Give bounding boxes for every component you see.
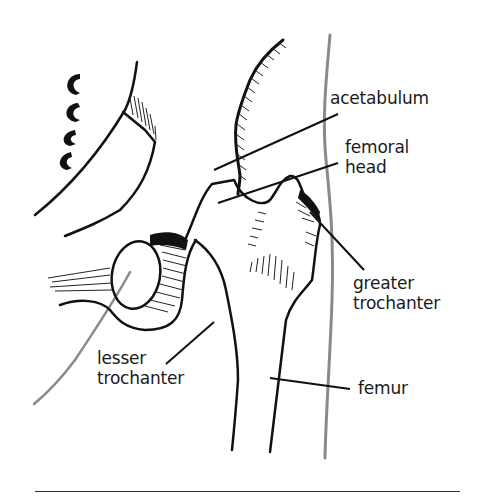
bottom-divider [35,491,460,492]
sacrum-icon [60,74,80,170]
pubis-dark-patch [150,232,188,250]
ilium-outline [35,62,137,215]
femur-outline [185,176,320,452]
label-acetabulum: acetabulum [330,88,429,108]
hip-anatomy-illustration [0,0,484,499]
acetabulum-hatching [236,42,286,180]
leader-femur [270,378,350,389]
label-lesser-trochanter: lesser trochanter [97,348,184,388]
leader-acetabulum [214,114,338,170]
label-femur: femur [358,378,408,398]
ilium-hatching [130,96,156,140]
femur-hatching [248,202,316,290]
label-femoral-head: femoral head [345,137,409,177]
label-greater-trochanter: greater trochanter [353,273,440,313]
femur-medial-shaft [195,240,238,450]
